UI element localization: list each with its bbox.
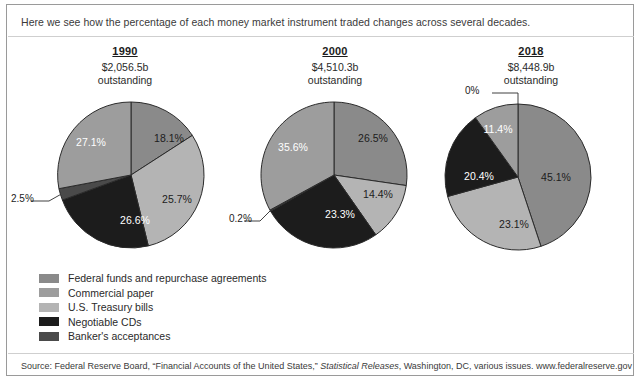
legend-item-bankers-acceptances: Banker's acceptances: [39, 329, 266, 344]
pie-value-federal-funds: 26.5%: [358, 132, 388, 144]
callout-leader-line: [492, 93, 518, 104]
legend-item-negotiable-cds: Negotiable CDs: [39, 315, 266, 330]
chart-amount-label: $2,056.5b: [25, 61, 225, 73]
legend-item-federal-funds: Federal funds and repurchase agreements: [39, 271, 266, 286]
pie-callout-bankers-acceptances: 0%: [465, 85, 479, 96]
pie-value-negotiable-cds: 20.4%: [464, 170, 494, 182]
legend-label: Negotiable CDs: [68, 316, 142, 328]
pie-value-negotiable-cds: 23.3%: [325, 208, 355, 220]
chart-amount-label: $8,448.9b: [431, 61, 631, 73]
source-suffix: , Washington, DC, various issues. www.fe…: [399, 361, 632, 371]
pie-value-treasury-bills: 14.4%: [363, 188, 393, 200]
intro-text: Here we see how the percentage of each m…: [21, 16, 611, 29]
pie-value-treasury-bills: 25.7%: [162, 193, 192, 205]
pie-svg-1990: 18.1% 25.7% 26.6% 27.1%: [25, 90, 225, 265]
chart-column-1990: 1990 $2,056.5b outstanding: [25, 45, 225, 265]
chart-outstanding-label: outstanding: [25, 74, 225, 86]
pie-value-federal-funds: 18.1%: [154, 132, 184, 144]
legend-label: Federal funds and repurchase agreements: [68, 272, 266, 284]
legend-swatch-icon: [39, 274, 59, 283]
callout-leader-line: [31, 195, 61, 202]
legend-swatch-icon: [39, 317, 59, 326]
pie-value-commercial-paper: 11.4%: [484, 123, 513, 135]
pie-value-commercial-paper: 35.6%: [278, 141, 308, 153]
legend-item-treasury-bills: U.S. Treasury bills: [39, 300, 266, 315]
pie-chart-2000: 26.5% 14.4% 23.3% 35.6% 0.2%: [235, 90, 435, 265]
legend-swatch-icon: [39, 332, 59, 341]
chart-year-label: 2018: [431, 45, 631, 57]
legend-label: U.S. Treasury bills: [68, 301, 153, 313]
legend-swatch-icon: [39, 303, 59, 312]
figure-panel: Here we see how the percentage of each m…: [6, 4, 634, 376]
pie-svg-2000: 26.5% 14.4% 23.3% 35.6%: [235, 90, 435, 265]
source-prefix: Source: Federal Reserve Board, “Financia…: [21, 361, 320, 371]
pie-callout-bankers-acceptances: 0.2%: [229, 213, 252, 224]
source-italic-title: Statistical Releases: [320, 361, 399, 371]
legend-item-commercial-paper: Commercial paper: [39, 286, 266, 301]
pie-chart-2018: 45.1% 23.1% 20.4% 11.4% 0%: [431, 90, 631, 265]
pie-chart-1990: 18.1% 25.7% 26.6% 27.1% 2.5%: [25, 90, 225, 265]
chart-column-2018: 2018 $8,448.9b outstanding 45.1% 23: [431, 45, 631, 265]
chart-outstanding-label: outstanding: [235, 74, 435, 86]
chart-year-label: 2000: [235, 45, 435, 57]
legend: Federal funds and repurchase agreements …: [39, 271, 266, 344]
pie-svg-2018: 45.1% 23.1% 20.4% 11.4%: [431, 90, 631, 265]
legend-label: Banker's acceptances: [68, 330, 170, 342]
pie-value-negotiable-cds: 26.6%: [120, 214, 150, 226]
legend-swatch-icon: [39, 288, 59, 297]
chart-amount-label: $4,510.3b: [235, 61, 435, 73]
legend-label: Commercial paper: [68, 287, 154, 299]
pie-callout-bankers-acceptances: 2.5%: [11, 193, 34, 204]
pie-value-commercial-paper: 27.1%: [76, 136, 106, 148]
chart-outstanding-label: outstanding: [431, 74, 631, 86]
chart-column-2000: 2000 $4,510.3b outstanding 26.5%: [235, 45, 435, 265]
pie-value-treasury-bills: 23.1%: [499, 218, 529, 230]
header-divider: [8, 36, 634, 37]
chart-year-label: 1990: [25, 45, 225, 57]
pie-value-federal-funds: 45.1%: [541, 171, 571, 183]
source-divider: [8, 353, 634, 354]
source-note: Source: Federal Reserve Board, “Financia…: [21, 361, 632, 371]
